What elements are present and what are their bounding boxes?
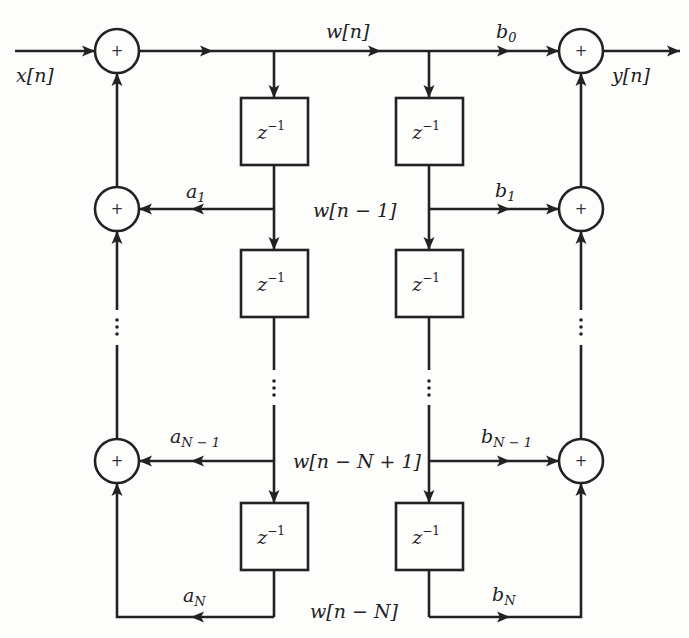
state-w1-label: w[n − 1] [313,199,397,221]
coeff-aN-label: aN [183,584,206,609]
plus-icon: + [575,452,588,470]
output-label: y[n] [611,64,650,86]
coeff-bN1-label: bN − 1 [481,425,532,450]
coeff-b0-label: b0 [496,20,516,45]
adder-left-n1: + [95,439,139,483]
coeff-bN-label: bN [492,583,516,608]
input-label: x[n] [16,64,54,86]
plus-icon: + [575,42,588,60]
ellipsis-dots [115,318,583,397]
delay-left-n: z−1 [241,503,308,570]
adder-right-n1: + [559,439,603,483]
direct-form-ii-diagram: + + + + + + z−1 z−1 z−1 z−1 z−1 [0,0,689,638]
adder-right-1: + [559,187,603,231]
delay-left-1: z−1 [241,98,308,165]
adder-left-0: + [95,29,139,73]
coeff-aN1-label: aN − 1 [170,425,220,450]
state-w0-label: w[n] [326,20,370,42]
coeff-a1-label: a1 [186,180,206,205]
delay-right-1: z−1 [396,98,463,165]
plus-icon: + [111,42,124,60]
coeff-b1-label: b1 [495,179,515,204]
adder-left-1: + [95,187,139,231]
state-wN1-label: w[n − N + 1] [293,450,422,472]
plus-icon: + [111,200,124,218]
delay-left-2: z−1 [241,250,308,317]
adder-right-0: + [559,29,603,73]
plus-icon: + [575,200,588,218]
delay-right-n: z−1 [396,503,463,570]
state-wN-label: w[n − N] [310,600,399,622]
plus-icon: + [111,452,124,470]
delay-right-2: z−1 [396,250,463,317]
arrowheads [82,46,680,623]
